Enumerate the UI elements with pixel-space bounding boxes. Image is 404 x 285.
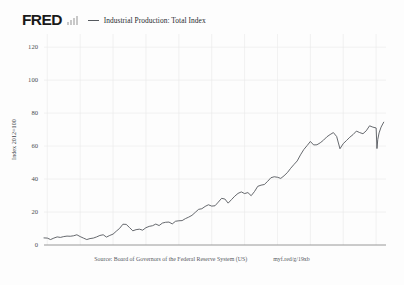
x-tick-label: 1990 [271,249,285,250]
x-tick-label: 1940 [106,249,120,250]
series-line-industrial-production [44,122,384,239]
chart-header: FRED Industrial Production: Total Index [22,11,206,29]
y-tick-label: 80 [31,109,38,116]
plot-area: 020406080100120 192019301940195019601970… [0,28,404,250]
y-tick-label: 0 [35,241,39,248]
x-tick-label: 1920 [41,249,55,250]
fred-chart-canvas: FRED Industrial Production: Total Index … [0,0,404,285]
x-tick-label: 2020 [370,249,384,250]
chart-legend: Industrial Production: Total Index [88,16,206,25]
gridlines [44,34,386,245]
y-axis-ticks: 020406080100120 [28,43,39,248]
x-tick-label: 1970 [205,249,219,250]
y-tick-label: 60 [31,142,38,149]
y-tick-label: 100 [28,76,39,83]
bar-chart-icon [67,16,78,25]
x-tick-label: 2000 [304,249,318,250]
x-axis-ticks: 1920193019401950196019701980199020002010… [41,249,384,250]
short-url-link[interactable]: myf.red/g/19xb [273,256,309,262]
chart-footer: Source: Board of Governors of the Federa… [0,256,404,262]
x-tick-label: 1960 [172,249,186,250]
fred-logo[interactable]: FRED [22,12,62,28]
x-tick-label: 1930 [74,249,88,250]
source-note: Source: Board of Governors of the Federa… [94,256,247,262]
y-axis-title: Index 2012=100 [10,119,17,160]
x-tick-label: 2010 [337,249,351,250]
x-tick-label: 1950 [139,249,153,250]
y-tick-label: 20 [31,208,38,215]
legend-series-label: Industrial Production: Total Index [104,16,206,25]
line-swatch-icon [88,20,99,21]
y-tick-label: 120 [28,43,39,50]
x-tick-label: 1980 [238,249,252,250]
chart-plot-svg: 020406080100120 192019301940195019601970… [0,28,404,250]
y-tick-label: 40 [31,175,38,182]
